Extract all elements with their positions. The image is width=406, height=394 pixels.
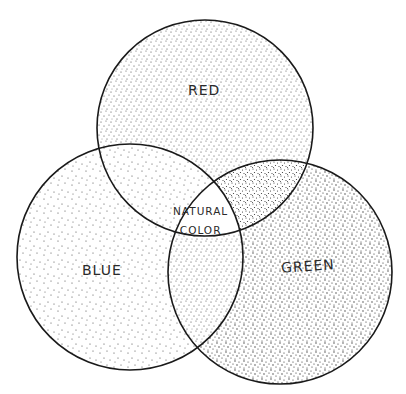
venn-diagram <box>0 0 406 394</box>
blue-label: BLUE <box>82 262 122 278</box>
natural-color-label: NATURAL COLOR <box>173 202 228 240</box>
natural-color-label-line2: COLOR <box>173 221 228 240</box>
red-label: RED <box>188 82 220 98</box>
natural-color-label-line1: NATURAL <box>173 202 228 221</box>
